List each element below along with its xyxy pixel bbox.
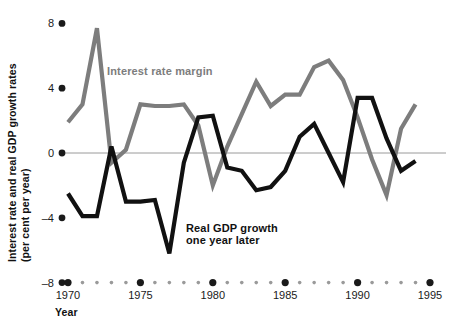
y-tick-dot bbox=[59, 279, 66, 286]
x-tick-label: 1985 bbox=[273, 289, 297, 301]
x-minor-tick-dot bbox=[197, 281, 201, 285]
x-major-tick-dot bbox=[137, 279, 144, 286]
x-minor-tick-dot bbox=[370, 281, 374, 285]
x-minor-tick-dot bbox=[124, 281, 128, 285]
y-tick-label: –8 bbox=[42, 277, 54, 289]
x-minor-tick-dot bbox=[153, 281, 157, 285]
y-tick-label: 4 bbox=[48, 82, 54, 94]
x-major-tick-dot bbox=[282, 279, 289, 286]
x-minor-tick-dot bbox=[240, 281, 244, 285]
x-minor-tick-dot bbox=[312, 281, 316, 285]
x-tick-label: 1995 bbox=[418, 289, 442, 301]
y-tick-dot bbox=[59, 85, 66, 92]
y-axis-title-line2: (per cent per year) bbox=[19, 168, 31, 262]
x-minor-tick-dot bbox=[399, 281, 403, 285]
x-tick-label: 1975 bbox=[128, 289, 152, 301]
x-minor-tick-dot bbox=[95, 281, 99, 285]
x-minor-tick-dot bbox=[225, 281, 229, 285]
x-major-tick-dot bbox=[354, 279, 361, 286]
y-tick-dot bbox=[59, 214, 66, 221]
x-minor-tick-dot bbox=[168, 281, 172, 285]
series-label-real-gdp-growth-line2: one year later bbox=[186, 234, 260, 246]
x-minor-tick-dot bbox=[341, 281, 345, 285]
chart-container: 840–4–8 197019751980198519901995 Interes… bbox=[0, 0, 462, 336]
series-label-interest-rate-margin: Interest rate margin bbox=[107, 65, 213, 77]
x-minor-tick-dot bbox=[269, 281, 273, 285]
x-axis-title: Year bbox=[55, 306, 78, 318]
x-minor-tick-dot bbox=[110, 281, 114, 285]
x-tick-label: 1970 bbox=[56, 289, 80, 301]
x-major-tick-dot bbox=[209, 279, 216, 286]
x-tick-label: 1980 bbox=[201, 289, 225, 301]
line-chart: 840–4–8 197019751980198519901995 Interes… bbox=[0, 0, 462, 336]
y-axis-title-line1: Interest rate and real GDP growth rates bbox=[6, 63, 18, 262]
series-label-real-gdp-growth-line1: Real GDP growth bbox=[186, 222, 278, 234]
y-tick-label: –4 bbox=[42, 212, 54, 224]
y-tick-dot bbox=[59, 150, 66, 157]
x-minor-tick-dot bbox=[414, 281, 418, 285]
y-tick-dot bbox=[59, 20, 66, 27]
x-tick-label: 1990 bbox=[345, 289, 369, 301]
y-tick-label: 0 bbox=[48, 147, 54, 159]
x-major-tick-dot bbox=[426, 279, 433, 286]
x-minor-tick-dot bbox=[385, 281, 389, 285]
x-minor-tick-dot bbox=[298, 281, 302, 285]
x-minor-tick-dot bbox=[254, 281, 258, 285]
x-minor-tick-dot bbox=[81, 281, 85, 285]
x-major-tick-dot bbox=[64, 279, 71, 286]
x-minor-tick-dot bbox=[182, 281, 186, 285]
y-tick-label: 8 bbox=[48, 17, 54, 29]
x-minor-tick-dot bbox=[327, 281, 331, 285]
